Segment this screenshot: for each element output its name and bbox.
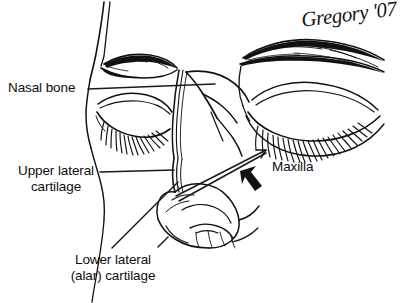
solid-arrow-marker <box>240 166 262 191</box>
nose-tip-and-ala <box>157 184 239 248</box>
near-eye <box>96 93 172 155</box>
label-maxilla: Maxilla <box>272 159 313 175</box>
anatomical-illustration: Nasal bone Upper lateral cartilage Lower… <box>0 0 407 303</box>
leader-upper-lateral-cartilage <box>100 170 174 172</box>
near-eyebrow <box>100 54 177 78</box>
nasal-dorsum <box>172 70 249 192</box>
leader-tick <box>158 237 168 247</box>
leader-nasal-bone <box>88 84 215 89</box>
label-lower-lateral-cartilage: Lower lateral (alar) cartilage <box>46 252 180 284</box>
far-eye <box>239 66 384 162</box>
far-eyebrow <box>240 40 384 73</box>
label-upper-lateral-cartilage: Upper lateral cartilage <box>14 163 98 195</box>
leader-lower-lateral-cartilage <box>112 182 178 248</box>
label-nasal-bone: Nasal bone <box>8 80 75 96</box>
